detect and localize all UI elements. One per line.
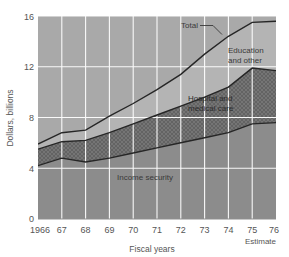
x-tick-73: 73 [200, 225, 210, 235]
x-tick-1966: 1966 [30, 225, 50, 235]
y-tick-12: 12 [24, 62, 34, 72]
x-tick-71: 71 [152, 225, 162, 235]
y-axis-title: Dollars, billions [5, 89, 15, 146]
y-tick-0: 0 [29, 214, 34, 224]
annotation-hospital-and-medical-care-line2: medical care [188, 104, 234, 113]
chart-figure: 16 12 8 4 0 1966 67 68 69 70 71 72 73 74… [0, 0, 289, 257]
x-tick-74: 74 [223, 225, 233, 235]
y-tick-8: 8 [29, 113, 34, 123]
y-tick-4: 4 [29, 164, 34, 174]
x-tick-75: 75 [247, 225, 257, 235]
x-tick-72: 72 [176, 225, 186, 235]
x-tick-70: 70 [128, 225, 138, 235]
x-tick-67: 67 [57, 225, 67, 235]
annotation-hospital-and-medical-care-line1: Hospital and [188, 94, 232, 103]
estimate-note: Estimate [245, 237, 277, 246]
x-tick-76: 76 [269, 225, 279, 235]
x-axis-title: Fiscal years [129, 244, 174, 254]
annotation-income-security: Income security [117, 173, 173, 182]
x-tick-68: 68 [81, 225, 91, 235]
area-chart: 16 12 8 4 0 1966 67 68 69 70 71 72 73 74… [0, 0, 289, 257]
annotation-education-and-other-line1: Education [228, 46, 264, 55]
annotation-education-and-other-line2: and other [228, 56, 262, 65]
y-tick-16: 16 [24, 12, 34, 22]
x-tick-69: 69 [104, 225, 114, 235]
annotation-total: Total [181, 21, 198, 30]
